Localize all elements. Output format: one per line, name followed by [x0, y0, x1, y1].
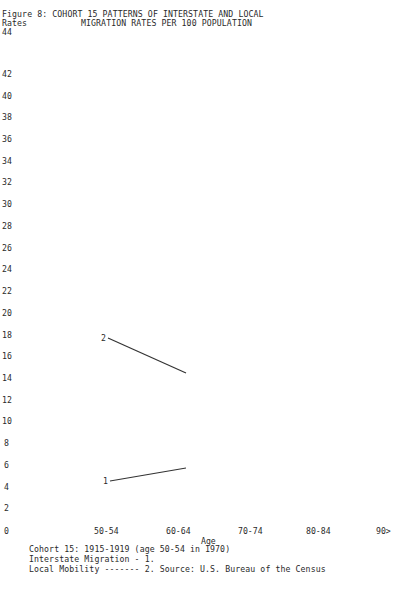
series-2-line	[108, 338, 186, 373]
series-2-marker-label: 2	[101, 333, 106, 343]
series-1-marker-label: 1	[103, 476, 108, 486]
footer-cohort: Cohort 15: 1915-1919 (age 50-54 in 1970)	[29, 544, 230, 554]
footer-legend-interstate: Interstate Migration - 1.	[29, 554, 155, 564]
footer-legend-local-source: Local Mobility ------- 2. Source: U.S. B…	[29, 564, 326, 574]
series-1-line	[110, 468, 186, 481]
plot-area	[0, 0, 419, 599]
